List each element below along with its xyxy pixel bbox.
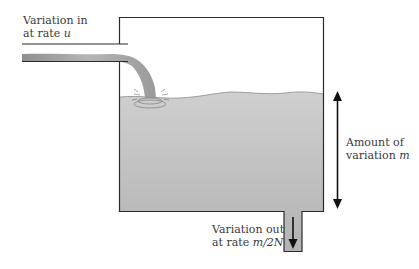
inflow-label: Variation in at rate u bbox=[23, 14, 88, 40]
amount-label: Amount of variation m bbox=[346, 136, 410, 162]
tank-diagram bbox=[0, 0, 419, 269]
outflow-label-line1: Variation out bbox=[212, 223, 284, 236]
outflow-label-line2: at rate m/2N bbox=[212, 236, 284, 249]
inflow-label-line1: Variation in bbox=[23, 14, 88, 27]
outflow-label: Variation out at rate m/2N bbox=[212, 223, 284, 249]
amount-label-line2: variation m bbox=[346, 149, 410, 162]
inflow-stream bbox=[22, 54, 156, 98]
amount-arrow bbox=[333, 91, 342, 209]
amount-label-line1: Amount of bbox=[346, 136, 410, 149]
inflow-label-line2: at rate u bbox=[23, 27, 88, 40]
